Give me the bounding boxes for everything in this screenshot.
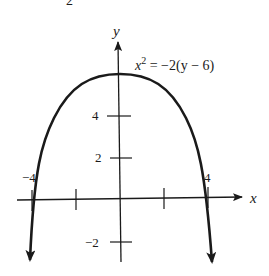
y-tick-label-4: 4 [92,108,99,123]
x-tick-label-neg4: −4 [22,170,36,185]
x-axis-label: x [249,190,257,206]
header-fragment: 2 [66,0,73,8]
y-axis-label: y [111,23,120,39]
y-tick-label-2: 2 [95,150,102,165]
parabola-curve [30,74,120,260]
y-tick-label-neg2: −2 [85,235,99,250]
parabola-graph: 2 x y −4 4 4 2 −2 x2 = −2(y − 6) [0,0,269,276]
equation-label: x2 = −2(y − 6) [134,55,215,74]
parabola-curve-right [120,74,212,262]
